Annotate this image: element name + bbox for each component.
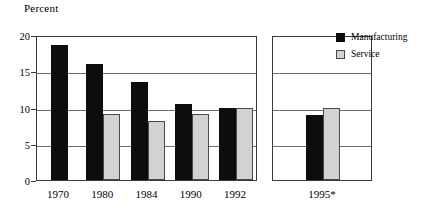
y-tick-label: 0 [25, 176, 30, 187]
bar-manufacturing [131, 82, 148, 180]
x-tick-label: 1995* [308, 188, 336, 200]
chart-legend: ManufacturingService [336, 30, 436, 64]
y-axis-title: Percent [24, 2, 58, 14]
bar-service [103, 114, 120, 180]
bar-service [323, 108, 340, 181]
y-tick-label: 10 [20, 103, 31, 114]
y-axis-tick-labels: 05101520 [8, 36, 30, 181]
x-tick-label: 1984 [136, 188, 158, 200]
bar-manufacturing [306, 115, 323, 180]
bar-manufacturing [51, 45, 68, 180]
bars-historical [37, 37, 256, 180]
bar-manufacturing [175, 104, 192, 180]
bar-chart: Percent 05101520 19701980198419901992199… [0, 0, 437, 224]
y-tick-label: 15 [20, 67, 31, 78]
legend-swatch-manufacturing [336, 33, 345, 42]
x-tick-label: 1990 [180, 188, 202, 200]
y-tick-label: 5 [25, 139, 30, 150]
bar-service [192, 114, 209, 180]
bar-service [148, 121, 165, 180]
y-tick-mark [31, 181, 36, 182]
x-tick-label: 1992 [224, 188, 246, 200]
plot-panel-historical [36, 36, 257, 181]
legend-item: Service [336, 47, 436, 62]
x-tick-label: 1980 [91, 188, 113, 200]
x-tick-label: 1970 [47, 188, 69, 200]
legend-label: Service [351, 50, 380, 60]
legend-item: Manufacturing [336, 30, 436, 45]
y-tick-label: 20 [20, 31, 31, 42]
bar-manufacturing [219, 108, 236, 181]
legend-swatch-service [336, 50, 345, 59]
legend-label: Manufacturing [351, 33, 407, 43]
bar-service [236, 108, 253, 181]
bar-manufacturing [86, 64, 103, 180]
